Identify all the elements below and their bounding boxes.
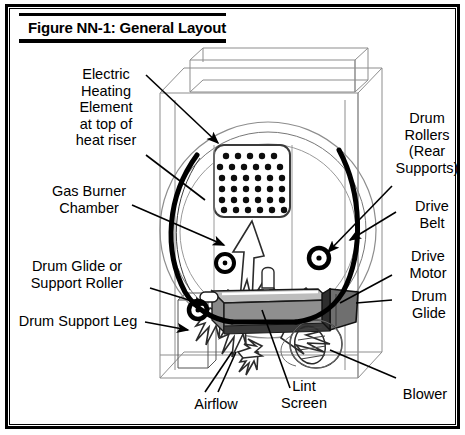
label-lint-screen: Lint Screen xyxy=(272,378,336,411)
label-drum-rollers-rear-supports: Drum Rollers (Rear Supports) xyxy=(392,110,462,176)
label-drum-glide-or-support-roller: Drum Glide or Support Roller xyxy=(12,258,142,291)
label-airflow: Airflow xyxy=(183,396,249,413)
drive-belt-highlight xyxy=(176,158,200,290)
leader-blower xyxy=(330,350,396,378)
label-gas-burner-chamber: Gas Burner Chamber xyxy=(34,183,144,216)
figure-container: Figure NN-1: General Layout xyxy=(0,0,465,435)
label-drive-belt: Drive Belt xyxy=(404,198,460,231)
label-drive-motor: Drive Motor xyxy=(398,248,458,281)
leader-airflow-1 xyxy=(205,352,232,392)
leader-drum-support-leg xyxy=(145,322,188,330)
drum-roller-right xyxy=(309,248,329,268)
label-electric-heating-element: Electric Heating Element at top of heat … xyxy=(60,66,152,149)
label-drum-glide: Drum Glide xyxy=(400,288,458,321)
drum-roller-left xyxy=(216,254,234,272)
leader-heating-element-1 xyxy=(146,75,218,143)
label-drum-support-leg: Drum Support Leg xyxy=(10,313,146,330)
leader-drum-glide xyxy=(356,300,392,303)
label-blower: Blower xyxy=(394,386,456,403)
lint-screen xyxy=(200,289,330,334)
heat-riser-pipe xyxy=(262,268,274,289)
